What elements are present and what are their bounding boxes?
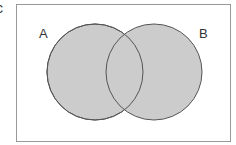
venn-diagram: A B bbox=[0, 0, 236, 145]
set-b-circle bbox=[106, 24, 202, 120]
set-a-label: A bbox=[39, 26, 48, 41]
set-b-label: B bbox=[199, 26, 208, 41]
